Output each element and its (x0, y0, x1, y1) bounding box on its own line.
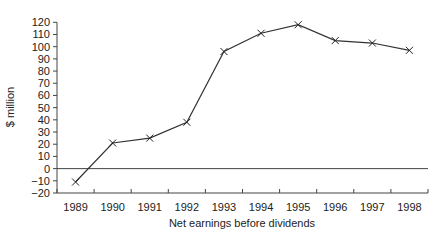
y-tick-label: 120 (32, 16, 50, 28)
y-tick-label: 70 (38, 77, 50, 89)
x-tick-label: 1995 (286, 201, 310, 213)
x-tick-label: 1990 (100, 201, 124, 213)
y-tick-label: 110 (32, 28, 50, 40)
y-tick-label: 10 (38, 150, 50, 162)
x-tick-label: 1989 (63, 201, 87, 213)
y-axis-label: $ million (4, 87, 16, 127)
x-axis: 1989199019911992199319941995199619971998 (57, 189, 428, 213)
x-tick-label: 1991 (138, 201, 162, 213)
x-marker-icon (220, 48, 227, 55)
y-tick-label: 30 (38, 126, 50, 138)
y-axis: −20−100102030405060708090100110120 (31, 16, 57, 199)
line-chart: −20−100102030405060708090100110120 19891… (0, 0, 445, 240)
x-tick-label: 1993 (212, 201, 236, 213)
y-tick-label: −10 (31, 175, 50, 187)
y-tick-label: 40 (38, 114, 50, 126)
x-tick-label: 1997 (360, 201, 384, 213)
y-tick-label: −20 (31, 187, 50, 199)
x-axis-label: Net earnings before dividends (169, 217, 316, 229)
y-tick-label: 50 (38, 102, 50, 114)
x-tick-label: 1992 (175, 201, 199, 213)
y-tick-label: 100 (32, 41, 50, 53)
y-tick-label: 20 (38, 138, 50, 150)
y-tick-label: 60 (38, 89, 50, 101)
data-series (72, 21, 413, 185)
x-tick-label: 1994 (249, 201, 273, 213)
x-marker-icon (183, 119, 190, 126)
series-line (76, 25, 410, 182)
x-tick-label: 1998 (397, 201, 421, 213)
y-tick-label: 0 (44, 163, 50, 175)
x-tick-label: 1996 (323, 201, 347, 213)
y-tick-label: 80 (38, 65, 50, 77)
x-marker-icon (72, 179, 79, 186)
y-tick-label: 90 (38, 53, 50, 65)
